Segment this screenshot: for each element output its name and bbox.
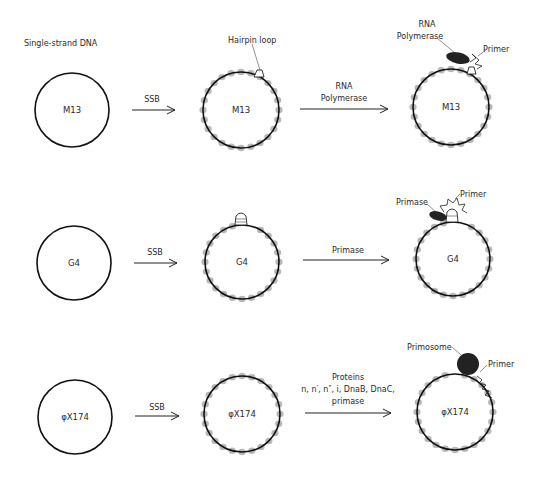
template-label: M13	[232, 105, 250, 115]
primed-circle	[413, 347, 496, 453]
template-label: φX174	[228, 409, 256, 419]
template-label: φX174	[61, 412, 89, 422]
row-g4: G4 SSB G4 Primase G4 Primase Primer	[37, 190, 494, 302]
step2-label-line: RNA	[335, 82, 353, 91]
rna-polymerase-icon	[445, 50, 471, 66]
hairpin-loop-label: Hairpin loop	[228, 36, 276, 45]
primer-label: Primer	[483, 45, 510, 54]
ssb-coated-circle	[199, 44, 282, 151]
template-label: G4	[68, 258, 80, 268]
template-label: M13	[442, 102, 460, 112]
template-label: φX174	[441, 407, 469, 417]
row-m13: M13 SSB M13 Hairpin loop RNA Polymerase …	[35, 20, 510, 151]
primed-circle	[412, 194, 493, 299]
primer-label: Primer	[488, 360, 515, 369]
hairpin-icon	[446, 209, 458, 222]
template-label: M13	[63, 105, 81, 115]
step2-label-line: Proteins	[332, 373, 364, 382]
enzyme-label-line: Primase	[396, 198, 428, 207]
hairpin-icon	[467, 67, 476, 74]
ssb-label: SSB	[144, 95, 160, 104]
step2-label-line: Primase	[332, 246, 364, 255]
ssb-label: SSB	[149, 403, 165, 412]
ssb-label: SSB	[147, 248, 163, 257]
primed-circle	[409, 38, 492, 148]
template-label: G4	[447, 254, 459, 264]
template-label: G4	[236, 257, 248, 267]
step2-label-line: Polymerase	[321, 94, 367, 103]
enzyme-label-line: RNA	[418, 20, 436, 29]
enzyme-label-line: Polymerase	[397, 32, 443, 41]
header-title: Single-strand DNA	[24, 39, 98, 48]
replication-diagram: Single-strand DNA M13 SSB M13 Hairpin lo…	[0, 0, 545, 485]
primosome-icon	[457, 353, 479, 375]
enzyme-label-line: Primosome	[407, 343, 452, 352]
row-phix174: φX174 SSB φX174 Proteins n, n′, n″, i, D…	[38, 343, 515, 455]
step2-label-line: n, n′, n″, i, DnaB, DnaC,	[301, 385, 395, 394]
step2-label-line: primase	[332, 397, 364, 406]
primer-label: Primer	[460, 190, 487, 199]
hairpin-icon	[254, 70, 264, 77]
